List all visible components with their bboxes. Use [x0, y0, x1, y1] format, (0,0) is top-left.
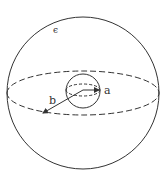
outer-equator-front [7, 93, 159, 115]
inner-equator-front [66, 90, 100, 96]
outer-sphere [7, 17, 159, 169]
label-b: b [49, 94, 56, 107]
inner-sphere [66, 74, 100, 108]
label-a: a [104, 84, 111, 97]
label-epsilon: ϵ [53, 25, 58, 35]
concentric-spheres-diagram: ϵ a b [0, 0, 167, 175]
inner-equator-back [66, 84, 100, 90]
